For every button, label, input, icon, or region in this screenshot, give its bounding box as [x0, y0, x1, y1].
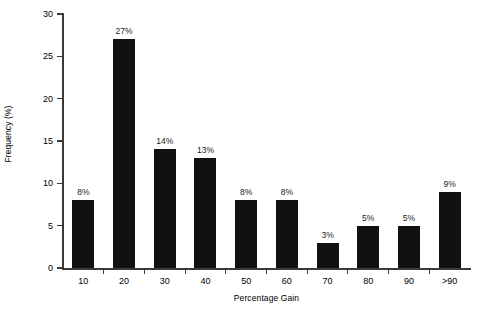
- bar: [439, 192, 461, 268]
- x-axis-tick-label: 40: [200, 277, 210, 287]
- bar-value-label: 14%: [156, 137, 173, 146]
- y-axis-title-label: Frequency (%): [3, 105, 13, 162]
- x-axis-tick-label: >90: [442, 277, 457, 287]
- x-axis-tick: [144, 269, 145, 274]
- x-axis-tick: [103, 269, 104, 274]
- x-axis-tick-label: 10: [78, 277, 88, 287]
- bar: [194, 158, 216, 268]
- bar-value-label: 5%: [403, 214, 415, 223]
- bar: [357, 226, 379, 268]
- x-axis-tick: [185, 269, 186, 274]
- x-axis-tick-label: 70: [323, 277, 333, 287]
- x-axis-tick: [225, 269, 226, 274]
- bar: [276, 200, 298, 268]
- x-axis-tick: [347, 269, 348, 274]
- bar: [113, 39, 135, 268]
- x-axis-title-label: Percentage Gain: [234, 293, 299, 303]
- bar: [398, 226, 420, 268]
- bar-value-label: 27%: [116, 27, 133, 36]
- y-axis-tick-label: 25: [1, 52, 53, 61]
- y-axis-tick-label: 15: [1, 137, 53, 146]
- x-axis-tick-label: 30: [160, 277, 170, 287]
- bar-value-label: 3%: [321, 231, 333, 240]
- x-axis-tick-label: 60: [282, 277, 292, 287]
- x-axis-tick-label: 20: [119, 277, 129, 287]
- bar-value-label: 8%: [281, 188, 293, 197]
- bar-value-label: 8%: [240, 188, 252, 197]
- y-axis-tick-label: 10: [1, 179, 53, 188]
- x-axis-tick-label: 90: [404, 277, 414, 287]
- x-axis-tick: [266, 269, 267, 274]
- bar: [317, 243, 339, 268]
- bar: [235, 200, 257, 268]
- bar-value-label: 5%: [362, 214, 374, 223]
- y-axis-tick-label: 30: [1, 10, 53, 19]
- x-axis-tick: [388, 269, 389, 274]
- bar-value-label: 9%: [443, 180, 455, 189]
- bar-value-label: 8%: [77, 188, 89, 197]
- y-axis-tick-label: 5: [1, 221, 53, 230]
- x-axis-title: Percentage Gain: [63, 293, 470, 303]
- y-axis-line: [62, 13, 64, 269]
- bar-chart: Frequency (%) 051015202530 8%27%14%13%8%…: [0, 0, 483, 319]
- bar: [72, 200, 94, 268]
- bar-value-label: 13%: [197, 146, 214, 155]
- y-axis-tick-label: 0: [1, 264, 53, 273]
- x-axis-tick-label: 80: [363, 277, 373, 287]
- x-axis-tick-label: 50: [241, 277, 251, 287]
- x-axis-tick: [429, 269, 430, 274]
- y-axis-tick-label: 20: [1, 94, 53, 103]
- x-axis-tick: [307, 269, 308, 274]
- bar: [154, 149, 176, 268]
